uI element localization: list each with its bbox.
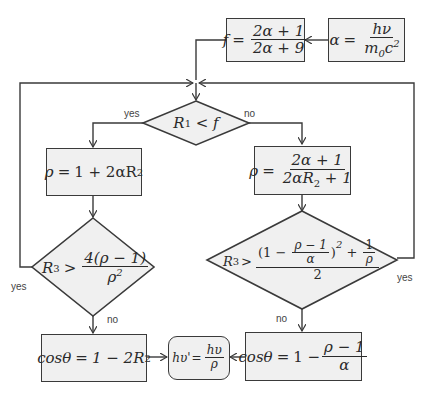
- main-no-label: no: [244, 108, 255, 119]
- result-fraction: hυ ρ: [205, 344, 224, 372]
- den-part-2: + 1: [320, 169, 352, 187]
- decision-left-denominator: ρ2: [106, 267, 125, 286]
- rho-left-expression: 1 + 2αR: [74, 163, 137, 181]
- cos-right-fraction: ρ − 1 α: [322, 339, 366, 374]
- rho-symbol: ρ: [45, 163, 54, 181]
- result-denominator: ρ: [209, 358, 220, 372]
- decision-left-numerator: 4(ρ − 1): [82, 250, 148, 268]
- equals-sign: =: [192, 351, 202, 365]
- cos-theta-symbol: cosθ: [37, 349, 71, 367]
- r2-subscript: 2: [137, 167, 143, 178]
- paren-open: (1 −: [258, 246, 291, 260]
- r2-subscript: 2: [144, 353, 150, 364]
- decision-right-fraction: (1 − ρ − 1 α )2 + 1 ρ 2: [256, 239, 379, 283]
- r3-symbol: R: [42, 259, 53, 277]
- greater-than-sign: >: [64, 259, 77, 277]
- comparison-text: < f: [191, 114, 219, 132]
- cos-right-numerator: ρ − 1: [322, 339, 366, 357]
- plus-sign: +: [342, 246, 361, 260]
- rho-symbol: ρ: [249, 162, 258, 180]
- square-exponent: 2: [116, 267, 122, 278]
- inner-denominator: α: [305, 253, 317, 267]
- equals-sign: =: [58, 163, 71, 181]
- f-numerator: 2α + 1: [251, 23, 306, 41]
- f-definition-box: f = 2α + 1 2α + 9: [226, 18, 305, 62]
- scattered-photon-energy-box: hυ' = hυ ρ: [168, 336, 230, 380]
- decision-left-fraction: 4(ρ − 1) ρ2: [82, 250, 148, 287]
- f-denominator: 2α + 9: [251, 40, 306, 57]
- decision-main-label: R1 < f: [150, 110, 242, 136]
- equals-sign: =: [262, 162, 275, 180]
- inner-fraction: ρ − 1 α: [292, 239, 328, 267]
- one-minus: 1 −: [293, 348, 320, 366]
- rho-left-box: ρ = 1 + 2αR2: [46, 148, 142, 196]
- alpha-fraction: hν m0c2: [362, 21, 401, 60]
- r3-subscript: 3: [233, 256, 239, 267]
- rho-right-denominator: 2αR2 + 1: [281, 170, 354, 190]
- rho-right-box: ρ = 2α + 1 2αR2 + 1: [254, 146, 351, 195]
- decision-right-denominator: 2: [311, 268, 323, 283]
- alpha-symbol: α: [329, 31, 339, 49]
- result-numerator: hυ: [205, 344, 224, 358]
- greater-than-sign: >: [241, 254, 252, 269]
- mass-symbol: m: [364, 39, 378, 57]
- rho-right-numerator: 2α + 1: [290, 152, 345, 170]
- equals-sign: =: [75, 349, 88, 367]
- cos-theta-symbol: cosθ: [238, 348, 272, 366]
- alpha-definition-box: α = hν m0c2: [328, 18, 405, 62]
- cos-left-box: cosθ = 1 − 2R2: [41, 334, 147, 382]
- equals-sign: =: [277, 348, 290, 366]
- inner-numerator: ρ − 1: [292, 239, 328, 253]
- cos-left-expression: 1 − 2R: [92, 349, 145, 367]
- f-symbol: f: [223, 31, 229, 49]
- equals-sign: =: [232, 31, 245, 49]
- left-yes-label: yes: [11, 281, 27, 292]
- scattered-energy-symbol: hυ': [172, 351, 190, 365]
- decision-right-numerator: (1 − ρ − 1 α )2 + 1 ρ: [256, 239, 379, 268]
- reciprocal-fraction: 1 ρ: [363, 239, 375, 267]
- right-yes-label: yes: [397, 272, 413, 283]
- decision-left-label: R3 > 4(ρ − 1) ρ2: [44, 250, 148, 286]
- equals-sign: =: [344, 31, 357, 49]
- reciprocal-numerator: 1: [363, 239, 375, 253]
- alpha-denominator: m0c2: [362, 38, 401, 60]
- r3-symbol: R: [223, 254, 233, 269]
- left-no-label: no: [107, 314, 118, 325]
- reciprocal-denominator: ρ: [364, 253, 375, 267]
- cos-right-box: cosθ = 1 − ρ − 1 α: [245, 332, 362, 381]
- square-exponent: 2: [393, 38, 399, 49]
- r1-symbol: R: [173, 114, 184, 132]
- decision-right-label: R3 > (1 − ρ − 1 α )2 + 1 ρ 2: [228, 236, 376, 286]
- r3-subscript: 3: [53, 263, 59, 274]
- rho-right-fraction: 2α + 1 2αR2 + 1: [281, 152, 354, 189]
- light-speed-symbol: c: [385, 39, 393, 57]
- den-part: 2αR: [283, 169, 314, 187]
- cos-right-denominator: α: [337, 357, 351, 374]
- main-yes-label: yes: [124, 108, 140, 119]
- alpha-numerator: hν: [370, 21, 393, 39]
- right-no-label: no: [276, 313, 287, 324]
- f-fraction: 2α + 1 2α + 9: [251, 23, 306, 58]
